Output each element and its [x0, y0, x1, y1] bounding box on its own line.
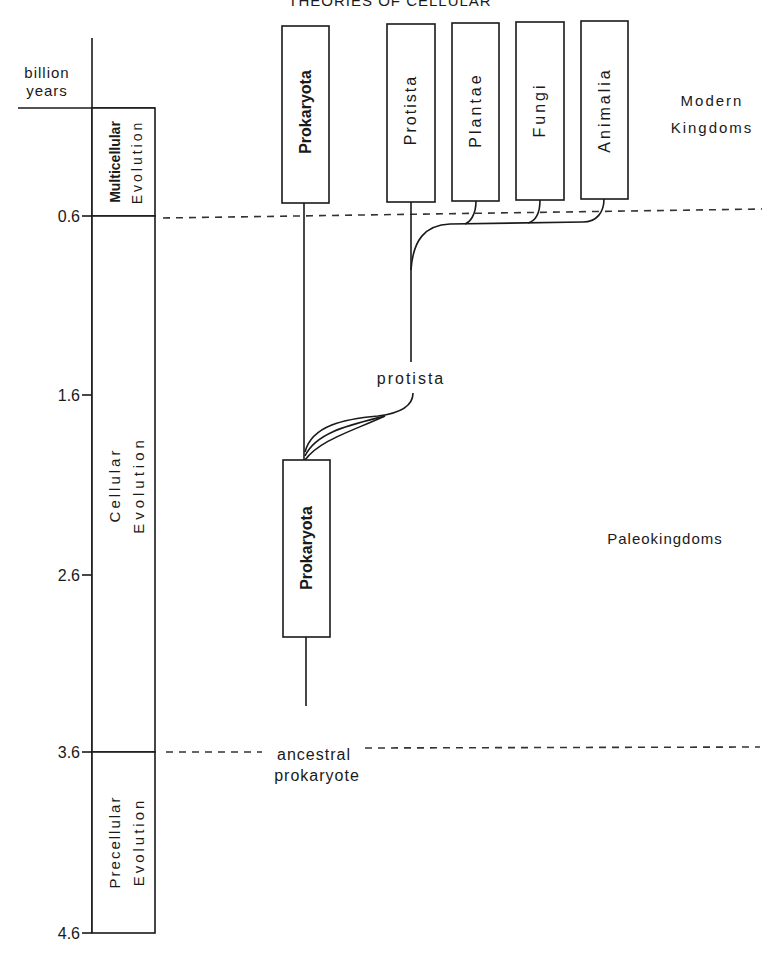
- boundary-0.6-dashed: [163, 209, 762, 218]
- protista-origin-branch: [305, 416, 385, 460]
- animalia-branch: [411, 199, 604, 270]
- era-box-multicellular: [92, 108, 155, 216]
- axis-unit-label: years: [26, 82, 68, 99]
- axis-unit-label: billion: [24, 64, 69, 81]
- kingdom-label: Animalia: [596, 67, 613, 152]
- tick-label: 3.6: [58, 744, 80, 761]
- protista-branch-label: protista: [377, 370, 445, 387]
- tick-label: 2.6: [58, 567, 80, 584]
- modern-kingdoms-heading: Modern: [681, 92, 744, 109]
- tick-label: 1.6: [58, 387, 80, 404]
- plantae-branch: [465, 201, 476, 224]
- ancestral-prokaryote-label: prokaryote: [274, 767, 360, 784]
- era-label: Evolution: [129, 120, 145, 205]
- kingdom-label: Fungi: [531, 82, 548, 137]
- time-axis: billion years 0.6 1.6 2.6 3.6 4.6 Multic…: [18, 38, 155, 942]
- kingdom-evolution-diagram: THEORIES OF CELLULAR billion years 0.6 1…: [0, 0, 779, 958]
- tick-label: 0.6: [58, 208, 80, 225]
- era-label: Cellular: [106, 448, 123, 523]
- lineage-lines: [304, 199, 604, 706]
- paleo-kingdom-label: Prokaryota: [298, 506, 315, 590]
- modern-kingdoms: Prokaryota Protista Plantae Fungi Animal…: [282, 21, 753, 203]
- era-label: Precellular: [106, 796, 123, 889]
- era-label: Evolution: [130, 798, 147, 887]
- running-title: THEORIES OF CELLULAR: [288, 0, 491, 9]
- kingdom-label: Prokaryota: [297, 70, 314, 154]
- kingdom-label: Protista: [402, 75, 419, 145]
- ancestral-prokaryote-label: ancestral: [277, 746, 351, 763]
- era-label: Evolution: [130, 436, 147, 534]
- fungi-branch: [528, 200, 540, 223]
- era-label: Multicellular: [107, 121, 123, 203]
- tick-label: 4.6: [58, 925, 80, 942]
- paleokingdoms-heading: Paleokingdoms: [607, 530, 723, 547]
- modern-kingdoms-heading: Kingdoms: [671, 119, 754, 136]
- kingdom-label: Plantae: [467, 72, 484, 147]
- boundary-3.6-dashed: [365, 747, 760, 748]
